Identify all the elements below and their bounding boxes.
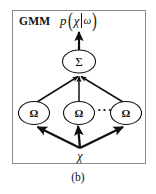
gmm-figure: Σ Ω Ω ··· Ω χ GMM p(χω) (b) [0,0,156,194]
formula-argument: χ [74,14,80,27]
formula-separator [81,13,82,28]
figure-caption: (b) [0,172,156,184]
omega-node-2-label: Ω [75,107,84,119]
edge-omega-3-to-sigma [81,77,123,103]
omega-node-1-label: Ω [30,107,39,119]
chi-input-label: χ [76,149,83,163]
formula-close-paren: ) [92,13,97,29]
edge-chi-to-omega-2 [78,126,80,148]
edge-chi-to-omega-1 [38,127,81,148]
omega-node-3-label: Ω [122,107,131,119]
diagram-canvas: Σ Ω Ω ··· Ω χ [12,10,146,164]
edge-chi-to-omega-3 [80,127,123,148]
output-formula: p(χω) [60,13,98,29]
formula-function: p [60,14,67,27]
edge-omega-1-to-sigma [37,77,78,103]
sigma-node-label: Σ [75,54,83,69]
formula-open-paren: ( [68,13,73,29]
formula-condition: ω [83,15,91,26]
panel-label: GMM [19,16,50,28]
